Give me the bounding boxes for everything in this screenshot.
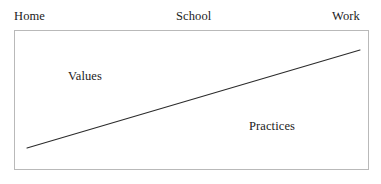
region-label-practices: Practices	[249, 119, 295, 133]
region-label-values: Values	[68, 69, 102, 83]
plot-area-box	[14, 30, 369, 170]
axis-label-home: Home	[14, 9, 45, 23]
axis-label-school: School	[176, 9, 211, 23]
concept-diagram: Home School Work Values Practices	[0, 0, 381, 184]
axis-label-work: Work	[332, 9, 360, 23]
